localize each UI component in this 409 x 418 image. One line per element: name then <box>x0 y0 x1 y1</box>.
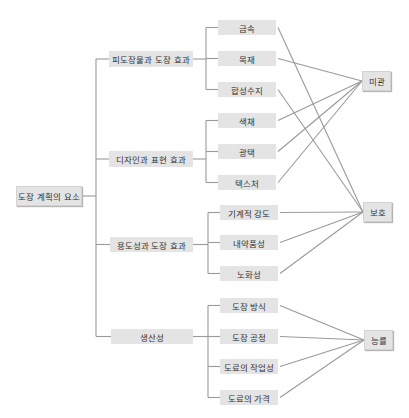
connector-line <box>280 337 364 341</box>
group-node-design-expression: 디자인과 표현 효과 <box>109 151 193 167</box>
leaf-node-label: 내약품성 <box>233 237 265 249</box>
target-node-label: 능률 <box>371 334 387 346</box>
leaf-node-label: 텍스처 <box>235 177 259 189</box>
leaf-node-metal: 금속 <box>218 20 276 35</box>
group-node-productivity: 생산성 <box>111 329 193 344</box>
target-node-efficiency: 능률 <box>364 330 393 350</box>
connector-line <box>280 340 364 367</box>
coating-plan-diagram: 도장 계획의 요소 피도장물과 도장 효과 디자인과 표현 효과 용도성과 도장… <box>0 0 409 418</box>
leaf-node-label: 도료의 작업성 <box>224 361 275 373</box>
group-node-usability-effect: 용도성과 도장 효과 <box>110 237 193 252</box>
leaf-node-coating-process: 도장 공정 <box>220 329 278 344</box>
connector-line <box>280 306 364 341</box>
leaf-node-label: 금속 <box>239 22 255 34</box>
leaf-node-label: 노화성 <box>237 268 261 280</box>
group-node-label: 피도장물과 도장 효과 <box>112 53 189 65</box>
leaf-node-synthetic-resin: 합성수지 <box>218 82 276 97</box>
leaf-node-label: 합성수지 <box>231 84 263 96</box>
group-node-label: 디자인과 표현 효과 <box>116 153 185 165</box>
leaf-node-aging: 노화성 <box>220 266 278 281</box>
root-node-coating-plan-elements: 도장 계획의 요소 <box>16 186 82 206</box>
leaf-node-label: 기계적 강도 <box>228 207 271 219</box>
leaf-node-label: 도료의 가격 <box>228 392 271 404</box>
connector-line <box>280 212 363 274</box>
group-node-substrate-effect: 피도장물과 도장 효과 <box>109 51 193 67</box>
leaf-node-chemical-resistance: 내약품성 <box>220 235 278 250</box>
connector-line <box>278 90 363 213</box>
connector-lines <box>0 0 409 418</box>
leaf-node-label: 색채 <box>239 115 255 127</box>
leaf-node-paint-price: 도료의 가격 <box>220 390 278 405</box>
group-node-label: 용도성과 도장 효과 <box>117 239 186 251</box>
target-node-protection: 보호 <box>363 202 392 222</box>
connector-line <box>278 28 363 213</box>
leaf-node-label: 광택 <box>239 146 255 158</box>
leaf-node-gloss: 광택 <box>218 144 276 159</box>
leaf-node-label: 목재 <box>239 53 255 65</box>
connector-line <box>280 340 364 398</box>
target-node-aesthetics: 미관 <box>362 71 391 91</box>
connector-line <box>278 59 362 82</box>
connector-line <box>278 81 362 152</box>
leaf-node-texture: 텍스처 <box>218 175 276 190</box>
connector-line <box>280 212 363 243</box>
target-node-label: 보호 <box>370 206 386 218</box>
connector-line <box>278 81 362 121</box>
leaf-node-label: 도장 방식 <box>232 300 267 312</box>
leaf-node-label: 도장 공정 <box>232 331 267 343</box>
group-node-label: 생산성 <box>140 331 164 343</box>
connector-line <box>278 81 362 183</box>
connector-line <box>280 212 363 213</box>
leaf-node-mechanical-strength: 기계적 강도 <box>220 205 278 220</box>
leaf-node-color: 색채 <box>218 113 276 128</box>
root-node-label: 도장 계획의 요소 <box>18 190 79 202</box>
target-node-label: 미관 <box>369 75 385 87</box>
leaf-node-coating-method: 도장 방식 <box>220 298 278 313</box>
leaf-node-paint-workability: 도료의 작업성 <box>220 359 278 374</box>
leaf-node-wood: 목재 <box>218 51 276 66</box>
